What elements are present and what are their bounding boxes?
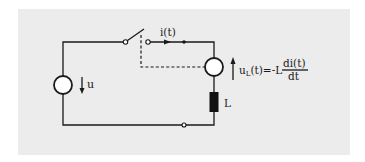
inductor — [210, 92, 219, 112]
current-label: i(t) — [160, 26, 176, 38]
voltage-source — [54, 76, 72, 94]
source-voltage-label: u — [87, 78, 94, 91]
inductor-label: L — [224, 97, 231, 109]
derivative-denominator: dt — [288, 70, 300, 82]
switch-contact-right — [146, 40, 150, 44]
circuit-diagram: u i(t) uL(t)=-L di(t) dt L — [0, 0, 365, 162]
junction-dot — [182, 40, 186, 44]
bottom-terminal — [182, 123, 186, 127]
derivative-numerator: di(t) — [283, 57, 306, 69]
switch-contact-left — [123, 40, 127, 44]
inductor-voltage-formula: uL(t)=-L — [239, 64, 282, 78]
voltage-meter — [205, 58, 223, 76]
